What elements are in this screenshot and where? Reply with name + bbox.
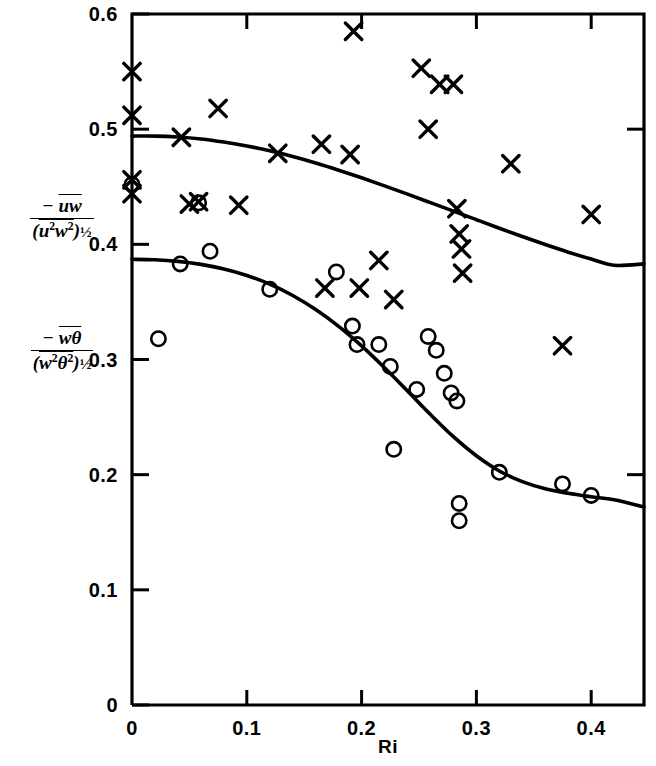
x-tick-label: 0.3	[462, 717, 491, 740]
fit-curve	[132, 136, 644, 265]
data-point-cross	[583, 206, 599, 222]
data-point-cross	[231, 197, 247, 213]
data-point-circle	[372, 337, 386, 351]
y-tick-label: 0.1	[40, 578, 118, 601]
heat-flux-fraction: − wθ (w2θ2)½	[31, 327, 94, 374]
x-tick-label: 0.4	[577, 717, 606, 740]
momentum-flux-fraction: − uw (u2w2)½	[30, 195, 93, 242]
y-tick-label: 0.2	[40, 463, 118, 486]
y-axis-label-momentum-flux: − uw (u2w2)½	[6, 195, 118, 242]
data-point-cross	[454, 265, 470, 281]
x-tick-label: 0.1	[232, 717, 261, 740]
y-tick-label: 0.6	[40, 3, 118, 26]
data-point-cross	[351, 280, 367, 296]
data-point-circle	[387, 442, 401, 456]
heat-flux-numerator: − wθ	[31, 327, 94, 350]
data-point-cross	[386, 291, 402, 307]
data-point-cross	[420, 121, 436, 137]
data-point-circle	[437, 366, 451, 380]
chart-figure: 00.10.20.30.40.50.6 00.10.20.30.4 Ri − u…	[0, 0, 656, 766]
data-point-circle	[555, 477, 569, 491]
data-point-circle	[151, 332, 165, 346]
data-point-circle	[452, 514, 466, 528]
momentum-flux-denominator: (u2w2)½	[30, 218, 93, 242]
y-axis-label-heat-flux: − wθ (w2θ2)½	[6, 327, 118, 374]
fit-curve	[132, 259, 644, 507]
data-point-cross	[445, 76, 461, 92]
data-point-cross	[554, 337, 570, 353]
data-point-cross	[453, 241, 469, 257]
data-point-circle	[329, 265, 343, 279]
plot-canvas	[0, 0, 656, 766]
data-point-cross	[313, 136, 329, 152]
y-tick-label: 0.5	[40, 118, 118, 141]
y-tick-label: 0	[40, 694, 118, 717]
x-tick-label: 0.2	[347, 717, 376, 740]
data-point-cross	[503, 156, 519, 172]
data-point-cross	[342, 146, 358, 162]
x-tick-label: 0	[126, 717, 138, 740]
data-points	[124, 23, 600, 528]
data-point-cross	[210, 100, 226, 116]
data-point-circle	[429, 343, 443, 357]
data-point-cross	[317, 280, 333, 296]
data-point-cross	[371, 252, 387, 268]
data-point-cross	[413, 60, 429, 76]
data-point-circle	[452, 496, 466, 510]
momentum-flux-numerator: − uw	[30, 195, 93, 218]
heat-flux-denominator: (w2θ2)½	[31, 350, 94, 374]
data-point-circle	[203, 244, 217, 258]
data-point-cross	[345, 23, 361, 39]
data-point-circle	[421, 329, 435, 343]
x-axis-ticks	[247, 14, 591, 705]
data-point-circle	[410, 382, 424, 396]
x-axis-title: Ri	[378, 736, 398, 758]
data-point-circle	[345, 319, 359, 333]
